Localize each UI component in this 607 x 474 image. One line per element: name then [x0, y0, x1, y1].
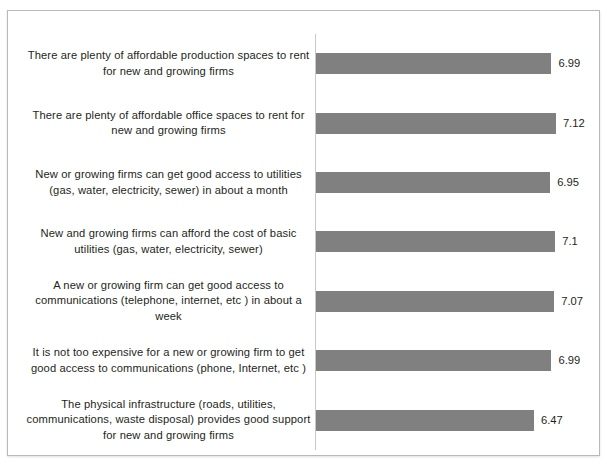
bar-value-label: 7.07 [561, 291, 583, 312]
bar-row: It is not too expensive for a new or gro… [16, 331, 607, 390]
bar[interactable] [316, 231, 555, 252]
bar-value-label: 7.12 [563, 113, 585, 134]
plot-area: There are plenty of affordable productio… [16, 22, 607, 466]
bar[interactable] [316, 350, 551, 371]
bar-value-label: 6.99 [558, 53, 580, 74]
bar-row: There are plenty of affordable office sp… [16, 93, 607, 152]
bar-value-label: 6.99 [558, 350, 580, 371]
bar-value-label: 6.47 [541, 410, 563, 431]
bar-row: New and growing firms can afford the cos… [16, 212, 607, 271]
category-label: A new or growing firm can get good acces… [26, 278, 311, 325]
bar[interactable] [316, 410, 534, 431]
category-label: There are plenty of affordable productio… [26, 48, 311, 79]
bar-rows: There are plenty of affordable productio… [16, 34, 607, 450]
bar[interactable] [316, 53, 551, 74]
bar[interactable] [316, 172, 550, 193]
chart-root: There are plenty of affordable productio… [0, 0, 607, 474]
bar[interactable] [316, 291, 554, 312]
bar-row: New or growing firms can get good access… [16, 153, 607, 212]
category-label: New and growing firms can afford the cos… [26, 226, 311, 257]
category-label: New or growing firms can get good access… [26, 167, 311, 198]
chart-frame: There are plenty of affordable productio… [7, 10, 600, 456]
bar-value-label: 7.1 [562, 231, 578, 252]
category-label: The physical infrastructure (roads, util… [26, 397, 311, 444]
category-label: It is not too expensive for a new or gro… [26, 345, 311, 376]
bar-row: A new or growing firm can get good acces… [16, 272, 607, 331]
bar-value-label: 6.95 [557, 172, 579, 193]
bar-row: The physical infrastructure (roads, util… [16, 391, 607, 450]
bar-row: There are plenty of affordable productio… [16, 34, 607, 93]
category-label: There are plenty of affordable office sp… [26, 108, 311, 139]
bar[interactable] [316, 113, 556, 134]
